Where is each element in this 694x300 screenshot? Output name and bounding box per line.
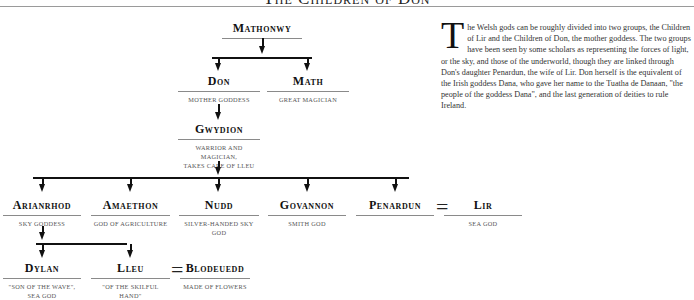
arrow-down-icon xyxy=(215,167,221,175)
node-arianrhod: Arianrhod Sky Goddess xyxy=(3,198,81,228)
node-underline xyxy=(3,215,81,216)
arrow-down-icon xyxy=(304,184,310,192)
arrow-down-icon xyxy=(259,46,265,54)
node-desc: "Son of the Wave", Sea God xyxy=(3,282,81,300)
arrow-down-icon xyxy=(39,250,45,258)
node-penardun: Penardun xyxy=(356,198,434,216)
node-dylan: Dylan "Son of the Wave", Sea God xyxy=(3,261,81,300)
node-underline xyxy=(91,278,170,279)
node-name: Blodeuedd xyxy=(180,261,250,275)
node-desc: "Of the Skilful Hand" xyxy=(91,282,170,300)
sibling-bar-gen4 xyxy=(33,177,409,179)
node-name: Nudd xyxy=(179,198,259,212)
header-rule xyxy=(0,6,694,7)
node-name: Arianrhod xyxy=(3,198,81,212)
node-mathonwy: Mathonwy xyxy=(222,21,302,39)
node-lir: Lir Sea God xyxy=(444,198,522,228)
intro-paragraph: The Welsh gods can be roughly divided in… xyxy=(441,22,691,112)
arrow-down-icon xyxy=(39,184,45,192)
node-nudd: Nudd Silver-handed Sky God xyxy=(179,198,259,237)
node-don: Don Mother Goddess xyxy=(178,74,260,104)
arrow-down-icon xyxy=(304,63,310,71)
node-underline xyxy=(268,215,346,216)
node-underline xyxy=(91,215,170,216)
drop-cap: T xyxy=(441,20,464,50)
node-name: Amaethon xyxy=(91,198,170,212)
arrow-down-icon xyxy=(215,63,221,71)
node-underline xyxy=(3,278,81,279)
node-desc-line: Warrior and Magician, xyxy=(195,144,242,160)
sibling-bar-gen5 xyxy=(36,243,127,245)
node-underline xyxy=(179,215,259,216)
node-name: Dylan xyxy=(3,261,81,275)
node-amaethon: Amaethon God of Agriculture xyxy=(91,198,170,228)
page-title: The Children of Don xyxy=(0,0,694,9)
node-name: Govannon xyxy=(268,198,346,212)
node-desc: Sea God xyxy=(444,219,522,228)
arrow-down-icon xyxy=(127,184,133,192)
node-desc: Great Magician xyxy=(267,95,349,104)
arrow-down-icon xyxy=(39,232,45,240)
node-desc: God of Agriculture xyxy=(91,219,170,228)
node-desc-line: Sea God xyxy=(28,292,57,299)
node-name: Lir xyxy=(444,198,522,212)
node-desc: Silver-handed Sky God xyxy=(179,219,259,237)
node-lleu: Lleu "Of the Skilful Hand" xyxy=(91,261,170,300)
node-math: Math Great Magician xyxy=(267,74,349,104)
node-underline xyxy=(444,215,522,216)
node-name: Gwydion xyxy=(178,122,260,136)
node-underline xyxy=(180,278,250,279)
arrow-down-icon xyxy=(392,184,398,192)
node-govannon: Govannon Smith God xyxy=(268,198,346,228)
node-underline xyxy=(356,215,434,216)
arrow-down-icon xyxy=(215,112,221,120)
node-name: Lleu xyxy=(91,261,170,275)
node-desc: Mother Goddess xyxy=(178,95,260,104)
node-desc-line: "Son of the Wave", xyxy=(9,283,76,290)
node-name: Mathonwy xyxy=(222,21,302,35)
node-underline xyxy=(178,139,260,140)
arrow-down-icon xyxy=(127,250,133,258)
node-name: Math xyxy=(267,74,349,88)
node-underline xyxy=(178,91,260,92)
sibling-bar-gen2 xyxy=(212,57,312,59)
node-name: Penardun xyxy=(356,198,434,212)
node-blodeuedd: Blodeuedd Made of Flowers xyxy=(180,261,250,291)
node-underline xyxy=(267,91,349,92)
arrow-down-icon xyxy=(215,184,221,192)
node-desc: Made of Flowers xyxy=(180,282,250,291)
node-name: Don xyxy=(178,74,260,88)
node-desc: Smith God xyxy=(268,219,346,228)
paragraph-body: he Welsh gods can be roughly divided int… xyxy=(441,23,691,110)
